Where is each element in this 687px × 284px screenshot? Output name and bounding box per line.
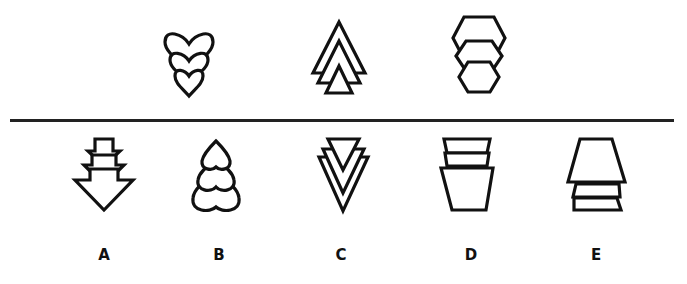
trapezoids-decreasing-icon [555, 128, 635, 218]
hearts-stack-icon [150, 10, 230, 110]
option-label-c[interactable]: C [326, 246, 356, 264]
option-figure-c[interactable] [300, 128, 380, 218]
option-label-a[interactable]: A [89, 246, 119, 264]
sequence-figure-hearts [150, 10, 230, 110]
option-figure-a[interactable] [65, 128, 145, 218]
triangles-stack-icon [300, 10, 380, 110]
option-label-b[interactable]: B [204, 246, 234, 264]
option-label-e[interactable]: E [581, 246, 611, 264]
inverted-triangles-stack-icon [300, 128, 380, 218]
trapezoids-increasing-icon [430, 128, 510, 218]
hexagons-stack-icon [440, 8, 520, 108]
option-figure-d[interactable] [430, 128, 510, 218]
option-figure-b[interactable] [180, 128, 260, 218]
inverted-hearts-stack-icon [180, 128, 260, 218]
sequence-figure-triangles [300, 10, 380, 110]
option-figure-e[interactable] [555, 128, 635, 218]
divider-line [10, 119, 674, 122]
sequence-figure-hexagons [440, 8, 520, 108]
option-label-d[interactable]: D [456, 246, 486, 264]
arrows-stack-icon [65, 128, 145, 218]
